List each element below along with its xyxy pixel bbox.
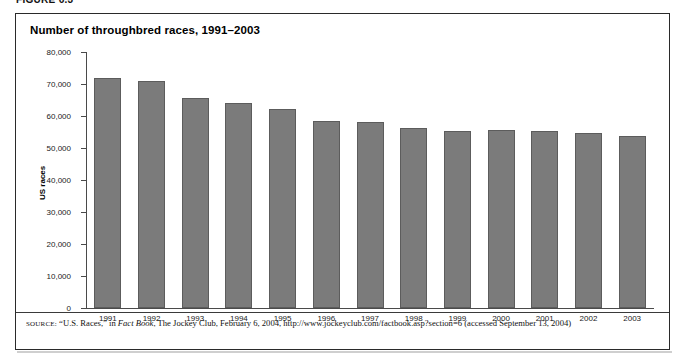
bar <box>575 133 602 308</box>
y-tick-label: 30,000 <box>20 208 80 217</box>
source-note: SOURCE: “U.S. Races,” in Fact Book, The … <box>26 318 666 330</box>
bar <box>488 130 515 308</box>
y-axis-line <box>86 52 87 308</box>
figure-number-label: FIGURE 6.3 <box>16 0 73 5</box>
y-tick-mark <box>81 84 86 85</box>
bar <box>531 131 558 308</box>
bar <box>357 122 384 308</box>
y-tick-label: 20,000 <box>20 240 80 249</box>
figure-page: FIGURE 6.3 Number of throughbred races, … <box>0 0 679 364</box>
y-tick-mark <box>81 308 86 309</box>
y-tick-mark <box>81 52 86 53</box>
source-text-after: , The Jockey Club, February 6, 2004, htt… <box>153 318 571 328</box>
source-label: SOURCE: <box>26 320 57 328</box>
bar <box>444 131 471 308</box>
y-tick-label: 50,000 <box>20 144 80 153</box>
figure-frame: Number of throughbred races, 1991–2003 U… <box>15 13 670 350</box>
bar <box>619 136 646 308</box>
bar <box>269 109 296 308</box>
x-axis-line <box>86 308 654 309</box>
y-tick-mark <box>81 244 86 245</box>
y-tick-label: 80,000 <box>20 48 80 57</box>
y-tick-mark <box>81 276 86 277</box>
y-tick-mark <box>81 212 86 213</box>
bar <box>182 98 209 308</box>
y-tick-label: 70,000 <box>20 80 80 89</box>
chart-title: Number of throughbred races, 1991–2003 <box>30 24 260 36</box>
y-tick-mark <box>81 148 86 149</box>
bar <box>225 103 252 308</box>
y-tick-mark <box>81 180 86 181</box>
source-italic-title: Fact Book <box>118 318 154 328</box>
bar <box>400 128 427 308</box>
y-tick-mark <box>81 116 86 117</box>
plot-area: 80,00070,00060,00050,00040,00030,00020,0… <box>86 52 654 308</box>
source-text-before: “U.S. Races,” in <box>57 318 118 328</box>
bar <box>313 121 340 308</box>
y-tick-label: 10,000 <box>20 272 80 281</box>
y-tick-label: 60,000 <box>20 112 80 121</box>
source-divider <box>16 312 669 313</box>
bar <box>138 81 165 308</box>
frame-shadow <box>17 351 672 353</box>
y-tick-label: 40,000 <box>20 176 80 185</box>
bar <box>94 78 121 308</box>
